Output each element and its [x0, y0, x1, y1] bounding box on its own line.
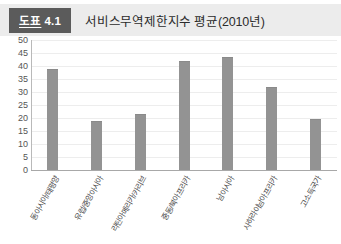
- y-tick-label: 35: [18, 74, 28, 84]
- y-tick-label: 5: [23, 152, 28, 162]
- figure-number-badge: 도표 4.1: [9, 8, 71, 33]
- figure-container: 도표 4.1 서비스무역제한지수 평균(2010년) 5045403530252…: [0, 0, 341, 244]
- bar[interactable]: [266, 87, 277, 170]
- x-tick-label-text: 중동/북아프리카: [159, 174, 193, 222]
- bar[interactable]: [91, 121, 102, 170]
- y-tick-label: 45: [18, 48, 28, 58]
- y-tick-label: 15: [18, 126, 28, 136]
- chart-area: 50454035302520151050 동아시아/태평양유럽/중앙아시아라틴아…: [0, 40, 341, 244]
- category-slot: 동아시아/태평양: [31, 172, 75, 244]
- badge-number: 4.1: [44, 15, 61, 27]
- y-axis-labels: 50454035302520151050: [0, 40, 30, 170]
- category-slot: 남아시아: [206, 172, 250, 244]
- category-slot: 유럽/중앙아시아: [75, 172, 119, 244]
- category-slot: 라틴아메리카/카리브: [118, 172, 162, 244]
- x-tick-label-text: 유럽/중앙아시아: [71, 174, 105, 222]
- x-tick-label-text: 동아시아/태평양: [27, 174, 61, 222]
- x-tick-label-text: 고소득국가: [297, 174, 323, 209]
- bar[interactable]: [310, 119, 321, 170]
- y-tick-label: 10: [18, 139, 28, 149]
- x-axis-categories: 동아시아/태평양유럽/중앙아시아라틴아메리카/카리브중동/북아프리카남아시아사하…: [31, 172, 337, 244]
- y-tick-label: 0: [23, 165, 28, 175]
- bar[interactable]: [135, 114, 146, 170]
- category-slot: 사하라이남아프리카: [250, 172, 294, 244]
- badge-label: 도표: [19, 12, 41, 28]
- y-tick-label: 50: [18, 35, 28, 45]
- figure-title: 서비스무역제한지수 평균(2010년): [85, 11, 265, 30]
- y-tick-label: 40: [18, 61, 28, 71]
- bar-slot: [206, 40, 250, 170]
- bar[interactable]: [222, 57, 233, 170]
- bar[interactable]: [179, 61, 190, 170]
- category-slot: 중동/북아프리카: [162, 172, 206, 244]
- y-tick-label: 25: [18, 100, 28, 110]
- category-slot: 고소득국가: [293, 172, 337, 244]
- x-tick-label-text: 남아시아: [213, 174, 236, 203]
- figure-header: 도표 4.1 서비스무역제한지수 평균(2010년): [0, 4, 341, 36]
- y-tick-label: 20: [18, 113, 28, 123]
- y-tick-label: 30: [18, 87, 28, 97]
- bar[interactable]: [47, 69, 58, 170]
